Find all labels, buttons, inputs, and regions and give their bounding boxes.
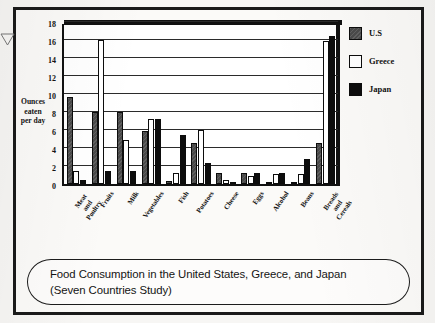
plot-right-border (336, 20, 340, 186)
bar-japan (205, 163, 211, 184)
bar-us (117, 112, 123, 184)
legend-label-greece: Greece (369, 56, 394, 66)
bar-greece (73, 171, 79, 184)
bar-japan (180, 135, 186, 185)
caption-text: Food Consumption in the United States, G… (50, 267, 400, 298)
bar-greece (123, 140, 129, 184)
bar-japan (279, 173, 285, 184)
legend-item-us: U.S (349, 26, 419, 40)
gridline (64, 75, 338, 76)
caption-line-1: Food Consumption in the United States, G… (50, 267, 400, 283)
bar-greece (223, 180, 229, 184)
pencil-arrow-mark (0, 33, 16, 46)
y-axis-title-line3: per day (8, 116, 58, 126)
bar-greece (173, 173, 179, 184)
gridline (64, 111, 338, 112)
legend-swatch-japan (349, 83, 362, 96)
bar-japan (230, 182, 236, 184)
gridline (64, 21, 338, 22)
bar-greece (298, 174, 304, 184)
bar-us (67, 97, 73, 184)
bar-us (166, 181, 172, 184)
bar-us (316, 143, 322, 184)
gridline (64, 39, 338, 40)
gridline (64, 57, 338, 58)
bar-greece (273, 174, 279, 184)
caption-line-2: (Seven Countries Study) (50, 283, 400, 299)
chart-legend: U.SGreeceJapan (349, 26, 419, 110)
bar-us (191, 143, 197, 184)
bar-greece (198, 130, 204, 184)
bar-japan (155, 119, 161, 184)
legend-item-japan: Japan (349, 82, 419, 96)
bar-us (142, 131, 148, 184)
bar-japan (130, 171, 136, 185)
bar-japan (304, 159, 310, 184)
bar-japan (105, 171, 111, 185)
bar-chart (62, 24, 336, 186)
bar-us (92, 112, 98, 184)
bar-greece (323, 41, 329, 184)
bar-us (291, 182, 297, 184)
bar-japan (80, 180, 86, 185)
legend-label-japan: Japan (369, 84, 391, 94)
legend-item-greece: Greece (349, 54, 419, 68)
bar-greece (248, 176, 254, 184)
plot-area (62, 24, 336, 186)
legend-swatch-us (349, 27, 362, 40)
figure-page: Ounces eaten per day 024681012141618 Mea… (0, 0, 435, 323)
caption-box: Food Consumption in the United States, G… (27, 259, 410, 305)
bar-japan (329, 36, 335, 184)
bar-japan (254, 173, 260, 184)
bar-greece (98, 40, 104, 184)
y-axis-title-line2: eaten (8, 107, 58, 117)
bar-us (266, 182, 272, 184)
gridline (64, 93, 338, 94)
y-axis-title-line1: Ounces (8, 97, 58, 107)
legend-swatch-greece (349, 55, 362, 68)
bar-greece (148, 119, 154, 184)
bar-us (216, 173, 222, 184)
legend-label-us: U.S (369, 28, 382, 38)
bar-us (241, 173, 247, 184)
y-axis-title: Ounces eaten per day (8, 97, 58, 126)
